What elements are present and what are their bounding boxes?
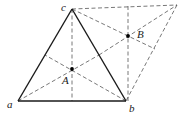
label-A: A — [61, 74, 69, 86]
point-A — [70, 67, 74, 71]
point-B — [126, 34, 130, 38]
edge-d-b — [126, 5, 177, 101]
label-a: a — [7, 98, 13, 110]
edge-c-d — [72, 5, 177, 9]
median-a — [18, 55, 99, 101]
label-b: b — [129, 102, 135, 114]
edge-c-b — [72, 9, 126, 101]
geometry-diagram: a b c A B — [0, 0, 191, 121]
label-c: c — [61, 1, 66, 13]
median-b — [45, 55, 126, 101]
label-B: B — [137, 28, 144, 40]
edge-a-c — [18, 9, 72, 101]
